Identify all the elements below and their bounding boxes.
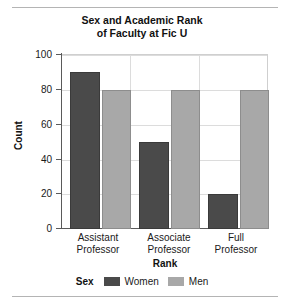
legend-item-men: Men <box>168 276 208 287</box>
divider-top <box>12 7 278 8</box>
chart-title-line-1: Sex and Academic Rank <box>0 14 284 27</box>
y-tick-label-100: 100 <box>14 50 52 60</box>
legend-label-women: Women <box>125 276 159 287</box>
legend-item-women: Women <box>104 276 159 287</box>
bar-men-full-professor <box>240 90 269 229</box>
legend-label-men: Men <box>189 276 208 287</box>
bar-women-associate-professor <box>139 142 169 229</box>
x-category-assistant-line-1: Assistant <box>62 232 134 244</box>
chart-title-line-2: of Faculty at Fic U <box>0 27 284 40</box>
bar-women-full-professor <box>208 194 238 229</box>
y-tick-label-80: 80 <box>14 85 52 95</box>
x-category-associate-line-2: Professor <box>133 244 205 256</box>
x-category-associate-line-1: Associate <box>133 232 205 244</box>
chart-title: Sex and Academic Rank of Faculty at Fic … <box>0 14 284 40</box>
x-category-assistant-line-2: Professor <box>62 244 134 256</box>
bar-men-assistant-professor <box>102 90 131 229</box>
legend: Sex Women Men <box>0 276 284 287</box>
bar-women-assistant-professor <box>70 72 100 229</box>
x-category-full-line-2: Professor <box>202 244 270 256</box>
gridline-100 <box>62 55 267 56</box>
plot-area <box>62 54 268 228</box>
legend-swatch-women-icon <box>104 277 120 286</box>
chart-page: Sex and Academic Rank of Faculty at Fic … <box>0 0 284 305</box>
legend-swatch-men-icon <box>168 277 184 286</box>
x-axis-title: Rank <box>62 258 268 269</box>
x-category-associate-professor: Associate Professor <box>133 232 205 256</box>
divider-bottom <box>12 296 278 297</box>
cut-off-header-text <box>14 0 276 6</box>
bar-men-associate-professor <box>171 90 200 229</box>
y-tick-label-0: 0 <box>14 224 52 234</box>
y-axis-title: Count <box>13 106 24 166</box>
y-tick-label-20: 20 <box>14 189 52 199</box>
x-category-full-line-1: Full <box>202 232 270 244</box>
x-category-full-professor: Full Professor <box>202 232 270 256</box>
x-category-assistant-professor: Assistant Professor <box>62 232 134 256</box>
legend-title: Sex <box>76 276 94 287</box>
